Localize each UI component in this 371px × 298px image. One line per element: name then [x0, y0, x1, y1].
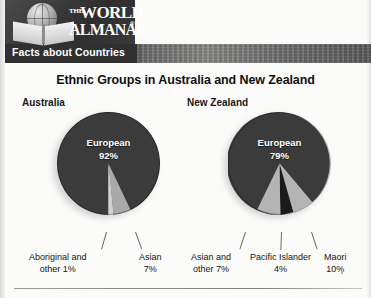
callout-asian-nz-line1: Asian and	[191, 251, 231, 263]
page-speck	[341, 271, 343, 274]
pie-australia-svg	[57, 112, 160, 215]
leader-line-asian-australia	[135, 232, 142, 249]
callout-aboriginal-line2: other 1%	[29, 263, 87, 275]
leader-line-asian-other-nz	[239, 232, 246, 249]
slice-label-european-australia: European	[57, 137, 160, 149]
callout-aboriginal-other: Aboriginal and other 1%	[29, 251, 87, 275]
panel-label-new-zealand: New Zealand	[187, 97, 248, 108]
callout-aboriginal-line1: Aboriginal and	[29, 251, 87, 263]
callout-pacific-line2: 4%	[250, 263, 311, 275]
figure-title: Ethnic Groups in Australia and New Zeala…	[0, 73, 371, 87]
pie-chart-australia: European 92%	[57, 112, 160, 215]
leader-line-aboriginal	[101, 232, 107, 250]
callout-asian-and-other: Asian and other 7%	[191, 251, 231, 275]
book-page-left	[13, 22, 43, 46]
callout-maori: Maori 10%	[324, 251, 347, 275]
page-canvas: THE WORLD ALMANAC ® Facts about Countrie…	[0, 0, 371, 298]
wordmark-almanac: ALMANAC	[69, 21, 147, 38]
series-label: Facts about Countries	[12, 46, 125, 58]
callout-asian-au-line2: 7%	[139, 263, 162, 275]
masthead-texture-strip	[137, 44, 371, 63]
callout-pacific-islander: Pacific Islander 4%	[250, 251, 311, 275]
globe-book-icon	[13, 2, 75, 46]
pie-chart-new-zealand: European 79%	[228, 112, 331, 215]
callout-asian-nz-line2: other 7%	[191, 263, 231, 275]
book-spine	[42, 24, 45, 44]
book-icon	[13, 24, 75, 44]
callout-asian-australia: Asian 7%	[139, 251, 162, 275]
leader-line-maori	[311, 232, 318, 249]
wordmark-world: WORLD	[80, 4, 143, 21]
callout-asian-au-line1: Asian	[139, 251, 162, 263]
callout-pacific-line1: Pacific Islander	[250, 251, 311, 263]
registered-mark: ®	[130, 21, 134, 27]
slice-value-european-new-zealand: 79%	[228, 150, 331, 162]
callout-maori-line2: 10%	[324, 263, 347, 275]
pie-newzealand-svg	[228, 112, 331, 215]
callout-maori-line1: Maori	[324, 251, 347, 263]
panel-label-australia: Australia	[22, 97, 65, 108]
leader-line-pacific-islander	[280, 232, 282, 250]
slice-value-european-australia: 92%	[57, 150, 160, 162]
slice-label-european-new-zealand: European	[228, 137, 331, 149]
masthead-banner: THE WORLD ALMANAC ® Facts about Countrie…	[5, 0, 371, 63]
footer-divider	[14, 288, 362, 289]
